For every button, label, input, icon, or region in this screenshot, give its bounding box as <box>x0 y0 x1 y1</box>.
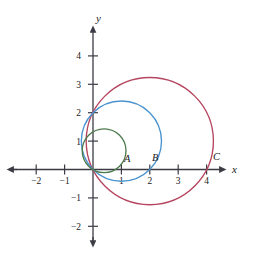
x-tick-label--1: −1 <box>60 176 70 186</box>
graph-figure: −2 −1 1 2 3 4 4 3 2 1 −1 −2 x y A B C <box>0 0 259 254</box>
x-tick-label-2: 2 <box>147 176 152 186</box>
x-axis-label: x <box>231 163 237 175</box>
curve-label-b: B <box>152 152 159 163</box>
curve-label-c: C <box>213 151 221 162</box>
curve-label-a: A <box>123 153 131 164</box>
y-tick-label-3: 3 <box>76 80 81 90</box>
plot-canvas: −2 −1 1 2 3 4 4 3 2 1 −1 −2 x y A B C <box>0 0 259 254</box>
y-tick-label-1: 1 <box>76 137 81 147</box>
x-tick-label-3: 3 <box>176 176 181 186</box>
y-tick-label--2: −2 <box>71 222 81 232</box>
y-axis-label: y <box>95 12 101 24</box>
y-tick-label-2: 2 <box>76 108 81 118</box>
y-tick-label-4: 4 <box>76 51 81 61</box>
curve-a-green <box>82 129 126 173</box>
x-tick-label--2: −2 <box>31 176 41 186</box>
x-tick-label-4: 4 <box>204 176 209 186</box>
y-tick-label--1: −1 <box>71 193 81 203</box>
